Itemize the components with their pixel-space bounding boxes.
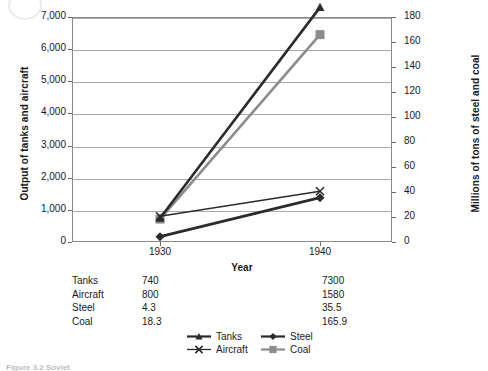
right-tick-label: 100 [404, 110, 450, 121]
table-cell: 800 [142, 289, 322, 303]
left-tick-label: 4,000 [20, 106, 66, 117]
legend-item-aircraft[interactable]: Aircraft [186, 344, 260, 355]
left-tick-label: 7,000 [20, 10, 66, 21]
right-axis-title: Millions of tons of steel and coal [470, 49, 481, 219]
left-tick-label: 2,000 [20, 171, 66, 182]
right-tick-mark [392, 67, 396, 68]
table-cell: 35.5 [322, 302, 412, 316]
right-tick-mark [392, 192, 396, 193]
legend-label: Steel [290, 331, 313, 342]
table-row: Tanks7407300 [72, 275, 412, 289]
table-row: Steel4.335.5 [72, 302, 412, 316]
table-cell: Coal [72, 316, 142, 330]
legend-label: Coal [290, 344, 311, 355]
chart-legend: TanksSteelAircraftCoal [186, 330, 386, 356]
x-tick-mark [160, 242, 161, 246]
data-table: Tanks7407300Aircraft8001580Steel4.335.5C… [72, 275, 412, 329]
x-tick-mark [320, 242, 321, 246]
right-tick-label: 160 [404, 35, 450, 46]
table-cell: 165.9 [322, 316, 412, 330]
right-tick-mark [392, 142, 396, 143]
legend-item-tanks[interactable]: Tanks [186, 331, 260, 342]
table-cell: Aircraft [72, 289, 142, 303]
left-tick-label: 3,000 [20, 139, 66, 150]
right-tick-label: 140 [404, 60, 450, 71]
right-tick-label: 180 [404, 10, 450, 21]
right-tick-mark [392, 42, 396, 43]
series-tanks [156, 3, 325, 222]
x-tick-label: 1930 [130, 246, 190, 257]
x-marker-icon [186, 344, 212, 355]
left-tick-label: 6,000 [20, 42, 66, 53]
x-tick-label: 1940 [290, 246, 350, 257]
series-layer [72, 17, 392, 242]
legend-label: Tanks [216, 331, 242, 342]
right-tick-label: 20 [404, 210, 450, 221]
right-tick-mark [392, 17, 396, 18]
table-cell: Tanks [72, 275, 142, 289]
right-tick-mark [392, 167, 396, 168]
legend-row: TanksSteel [186, 330, 386, 343]
left-tick-label: 5,000 [20, 74, 66, 85]
triangle-marker-icon [186, 331, 212, 342]
legend-row: AircraftCoal [186, 343, 386, 356]
right-tick-mark [392, 217, 396, 218]
left-tick-label: 0 [20, 235, 66, 246]
right-tick-label: 80 [404, 135, 450, 146]
table-row: Aircraft8001580 [72, 289, 412, 303]
series-steel [156, 193, 325, 241]
left-tick-mark [68, 242, 72, 243]
legend-item-steel[interactable]: Steel [260, 331, 313, 342]
table-cell: 18.3 [142, 316, 322, 330]
figure-caption: Figure 3.2 Soviet [6, 363, 70, 371]
right-tick-label: 40 [404, 185, 450, 196]
right-tick-mark [392, 117, 396, 118]
table-cell: 740 [142, 275, 322, 289]
x-axis-title: Year [192, 262, 292, 273]
right-tick-mark [392, 242, 396, 243]
square-marker-icon [260, 344, 286, 355]
table-cell: Steel [72, 302, 142, 316]
right-tick-mark [392, 92, 396, 93]
left-tick-label: 1,000 [20, 203, 66, 214]
table-cell: 7300 [322, 275, 412, 289]
diamond-marker-icon [260, 331, 286, 342]
right-tick-label: 120 [404, 85, 450, 96]
right-tick-label: 60 [404, 160, 450, 171]
table-cell: 4.3 [142, 302, 322, 316]
legend-label: Aircraft [216, 344, 248, 355]
legend-item-coal[interactable]: Coal [260, 344, 311, 355]
chart-figure: Output of tanks and aircraft Millions of… [0, 0, 488, 371]
table-cell: 1580 [322, 289, 412, 303]
right-tick-label: 0 [404, 235, 450, 246]
table-row: Coal18.3165.9 [72, 316, 412, 330]
